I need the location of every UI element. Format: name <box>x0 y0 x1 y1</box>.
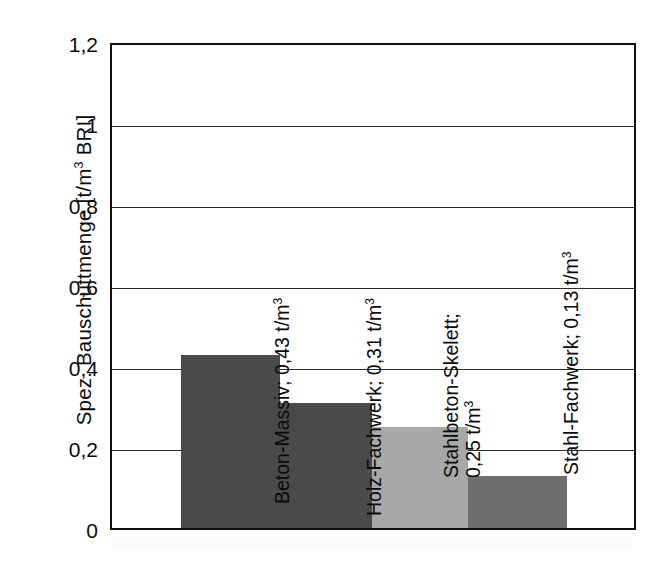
bar-label-stahlbeton-skelett-value: 0,25 t/m <box>462 408 484 478</box>
y-tick-label-1: 1 <box>32 115 98 136</box>
y-tick-label-1-2: 1,2 <box>32 34 98 55</box>
bar-label-stahlbeton-skelett-exponent: 3 <box>461 401 475 408</box>
y-tick-label-0-6: 0,6 <box>32 277 98 298</box>
y-axis-tick-labels: 0 0,2 0,4 0,6 0,8 1 1,2 <box>32 0 98 565</box>
bar-label-stahlbeton-skelett-text: Stahlbeton-Skelett; <box>440 313 462 478</box>
bar-label-stahl-fachwerk-text: Stahl-Fachwerk; 0,13 t/m <box>560 258 582 475</box>
bar-label-holz-fachwerk: Holz-Fachwerk; 0,31 t/m3 <box>364 298 386 516</box>
bar-label-beton-massiv-text: Beton-Massiv; 0,43 t/m <box>271 305 293 504</box>
bar-label-stahlbeton-skelett: Stahlbeton-Skelett;0,25 t/m3 <box>441 268 485 478</box>
bar-fill-stahl-fachwerk <box>468 476 567 528</box>
bar-label-stahl-fachwerk-exponent: 3 <box>560 252 574 259</box>
gridline-0-8 <box>112 207 634 208</box>
bar-beton-massiv[interactable] <box>181 355 280 528</box>
plot-area: Beton-Massiv; 0,43 t/m3 Holz-Fachwerk; 0… <box>110 43 636 530</box>
y-tick-label-0-4: 0,4 <box>32 358 98 379</box>
bar-stahl-fachwerk[interactable] <box>468 476 567 528</box>
bar-fill-beton-massiv <box>181 355 280 528</box>
y-tick-label-0-2: 0,2 <box>32 439 98 460</box>
gridline-1-0 <box>112 126 634 127</box>
bar-label-holz-fachwerk-exponent: 3 <box>363 298 377 305</box>
y-tick-label-0: 0 <box>32 520 98 541</box>
bar-label-stahl-fachwerk: Stahl-Fachwerk; 0,13 t/m3 <box>561 252 583 475</box>
bar-label-beton-massiv: Beton-Massiv; 0,43 t/m3 <box>272 298 294 504</box>
gridline-0-6 <box>112 288 634 289</box>
bar-label-holz-fachwerk-text: Holz-Fachwerk; 0,31 t/m <box>363 305 385 516</box>
plot-inner: Beton-Massiv; 0,43 t/m3 Holz-Fachwerk; 0… <box>112 45 634 528</box>
bar-chart-figure: Spez. Bauschuttmenge [t/m3 BRI] 0 0,2 0,… <box>0 0 666 565</box>
y-tick-label-0-8: 0,8 <box>32 196 98 217</box>
bar-label-beton-massiv-exponent: 3 <box>271 298 285 305</box>
scan-artifact-strip <box>112 536 632 549</box>
